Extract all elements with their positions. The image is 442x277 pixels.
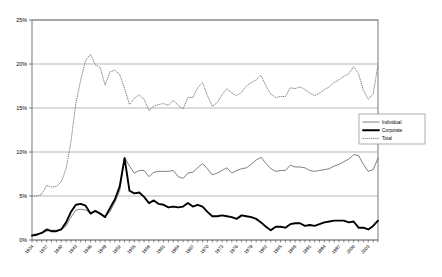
- x-axis-tick-label: 1934: [24, 244, 35, 255]
- line-chart: 0%5%10%15%20%25%193419371940194319461949…: [0, 0, 442, 277]
- x-axis-tick-label: 1952: [111, 244, 122, 255]
- x-axis-tick-label: 1982: [258, 244, 269, 255]
- x-axis-tick-label: 2003: [360, 244, 371, 255]
- x-axis-tick-label: 1970: [199, 244, 210, 255]
- y-axis-tick-label: 0%: [19, 237, 27, 243]
- x-axis-tick-label: 1976: [228, 244, 239, 255]
- legend-label-corporate: Corporate: [382, 128, 403, 133]
- y-axis-tick-label: 20%: [16, 61, 27, 67]
- plot-frame: [32, 20, 378, 240]
- chart-container: 0%5%10%15%20%25%193419371940194319461949…: [0, 0, 442, 277]
- x-axis-tick-label: 1964: [170, 244, 181, 255]
- x-axis-tick-label: 1937: [38, 244, 49, 255]
- x-axis-tick-label: 1979: [243, 244, 254, 255]
- x-axis-tick-label: 1967: [185, 244, 196, 255]
- x-axis-tick-label: 1988: [287, 244, 298, 255]
- series-line-corporate: [32, 158, 378, 235]
- x-axis-tick-label: 1994: [316, 244, 327, 255]
- x-axis-tick-label: 1991: [302, 244, 313, 255]
- x-axis-tick-label: 2000: [345, 244, 356, 255]
- x-axis-tick-label: 1997: [331, 244, 342, 255]
- legend-label-total: Total: [382, 136, 392, 141]
- x-axis-tick-label: 1985: [272, 244, 283, 255]
- y-axis-tick-label: 15%: [16, 105, 27, 111]
- x-axis-tick-label: 1943: [68, 244, 79, 255]
- x-axis-tick-label: 1940: [53, 244, 64, 255]
- x-axis-tick-label: 1946: [82, 244, 93, 255]
- x-axis-tick-label: 1949: [97, 244, 108, 255]
- x-axis-tick-label: 1973: [214, 244, 225, 255]
- x-axis-tick-label: 1955: [126, 244, 137, 255]
- legend: IndividualCorporateTotal: [359, 114, 425, 144]
- legend-label-individual: Individual: [382, 120, 401, 125]
- series-line-total: [32, 54, 378, 196]
- y-axis-tick-label: 25%: [16, 17, 27, 23]
- y-axis-tick-label: 10%: [16, 149, 27, 155]
- x-axis-tick-label: 1961: [155, 244, 166, 255]
- x-axis-tick-label: 1958: [141, 244, 152, 255]
- plot-area: 0%5%10%15%20%25%193419371940194319461949…: [0, 0, 442, 277]
- y-axis-tick-label: 5%: [19, 193, 27, 199]
